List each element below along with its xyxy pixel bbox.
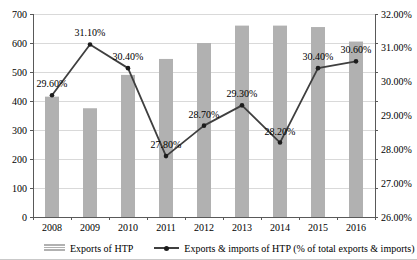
svg-text:30.60%: 30.60%	[341, 44, 372, 55]
svg-text:2012: 2012	[194, 222, 214, 233]
marker-2014	[278, 140, 283, 145]
line-series-swatch-icon	[154, 244, 179, 253]
bar-series-swatch-icon	[44, 244, 65, 252]
marker-2010	[126, 66, 131, 71]
svg-text:27.00%: 27.00%	[381, 178, 412, 189]
svg-text:26.00%: 26.00%	[381, 212, 412, 223]
svg-text:2008: 2008	[42, 222, 62, 233]
svg-text:500: 500	[12, 67, 27, 78]
line-swatch-marker-icon	[164, 246, 169, 251]
svg-text:100: 100	[12, 183, 27, 194]
bar-2013	[235, 26, 249, 217]
legend-label-exports: Exports of HTP	[70, 243, 133, 254]
svg-text:27.80%: 27.80%	[151, 139, 182, 150]
svg-text:700: 700	[12, 9, 27, 20]
legend-label-share: Exports & imports of HTP (% of total exp…	[184, 243, 414, 254]
svg-text:30.00%: 30.00%	[381, 76, 412, 87]
svg-text:2013: 2013	[232, 222, 252, 233]
bar-2008	[45, 97, 59, 217]
legend-item-exports-bar: Exports of HTP	[44, 243, 133, 254]
chart-figure: 010020030040050060070026.00%27.00%28.00%…	[0, 0, 417, 260]
svg-text:30.40%: 30.40%	[303, 51, 334, 62]
svg-text:600: 600	[12, 38, 27, 49]
svg-text:29.30%: 29.30%	[227, 88, 258, 99]
svg-text:28.20%: 28.20%	[265, 126, 296, 137]
svg-text:300: 300	[12, 125, 27, 136]
svg-text:0: 0	[22, 212, 27, 223]
marker-2015	[316, 66, 321, 71]
svg-text:200: 200	[12, 154, 27, 165]
legend-item-share-line: Exports & imports of HTP (% of total exp…	[154, 243, 414, 254]
bar-2016	[349, 42, 363, 217]
svg-text:28.00%: 28.00%	[381, 144, 412, 155]
svg-text:2014: 2014	[270, 222, 290, 233]
bar-2011	[159, 59, 173, 217]
svg-text:32.00%: 32.00%	[381, 9, 412, 20]
marker-2013	[240, 103, 245, 108]
combo-chart-plot: 010020030040050060070026.00%27.00%28.00%…	[0, 0, 417, 238]
svg-text:31.00%: 31.00%	[381, 42, 412, 53]
svg-text:30.40%: 30.40%	[113, 51, 144, 62]
marker-2008	[50, 93, 55, 98]
marker-2016	[354, 59, 359, 64]
svg-text:29.60%: 29.60%	[37, 78, 68, 89]
marker-2009	[88, 42, 93, 47]
svg-text:31.10%: 31.10%	[75, 27, 106, 38]
svg-text:29.00%: 29.00%	[381, 110, 412, 121]
bar-2010	[121, 75, 135, 217]
svg-text:2009: 2009	[80, 222, 100, 233]
svg-text:2016: 2016	[346, 222, 366, 233]
marker-2011	[164, 154, 169, 159]
svg-text:400: 400	[12, 96, 27, 107]
svg-text:2010: 2010	[118, 222, 138, 233]
bar-2009	[83, 108, 97, 217]
svg-text:2011: 2011	[156, 222, 176, 233]
svg-text:2015: 2015	[308, 222, 328, 233]
marker-2012	[202, 123, 207, 128]
bar-2014	[273, 26, 287, 217]
svg-text:28.70%: 28.70%	[189, 109, 220, 120]
chart-legend: Exports of HTP Exports & imports of HTP …	[44, 239, 415, 257]
